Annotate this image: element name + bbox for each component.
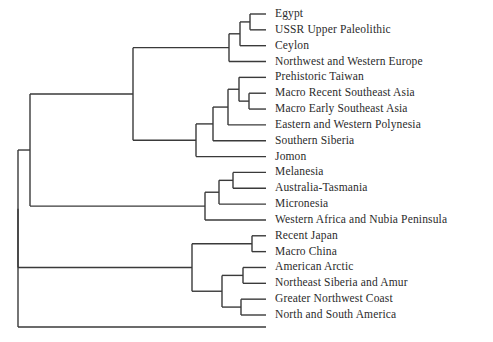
dendrogram-tree — [0, 0, 493, 342]
leaf-label-northeast-siberia-and-amur: Northeast Siberia and Amur — [275, 277, 408, 289]
leaf-label-northwest-and-western-europe: Northwest and Western Europe — [275, 56, 423, 68]
leaf-label-australia-tasmania: Australia-Tasmania — [275, 182, 368, 194]
leaf-label-eastern-and-western-polynesia: Eastern and Western Polynesia — [275, 119, 421, 131]
leaf-label-macro-china: Macro China — [275, 246, 337, 258]
dendrogram-figure: EgyptUSSR Upper PaleolithicCeylonNorthwe… — [0, 0, 493, 342]
leaf-label-jomon: Jomon — [275, 151, 306, 163]
tree-branch-lines — [18, 14, 266, 327]
leaf-label-macro-recent-southeast-asia: Macro Recent Southeast Asia — [275, 87, 415, 99]
leaf-label-western-africa-and-nubia-peninsula: Western Africa and Nubia Peninsula — [275, 214, 447, 226]
leaf-label-egypt: Egypt — [275, 8, 303, 20]
leaf-label-macro-early-southeast-asia: Macro Early Southeast Asia — [275, 103, 408, 115]
leaf-label-ussr-upper-paleolithic: USSR Upper Paleolithic — [275, 24, 391, 36]
leaf-label-greater-northwest-coast: Greater Northwest Coast — [275, 293, 393, 305]
leaf-label-prehistoric-taiwan: Prehistoric Taiwan — [275, 71, 364, 83]
leaf-label-micronesia: Micronesia — [275, 198, 328, 210]
leaf-label-ceylon: Ceylon — [275, 40, 309, 52]
leaf-label-north-and-south-america: North and South America — [275, 309, 396, 321]
leaf-label-recent-japan: Recent Japan — [275, 230, 338, 242]
leaf-label-southern-siberia: Southern Siberia — [275, 135, 354, 147]
leaf-label-american-arctic: American Arctic — [275, 261, 354, 273]
leaf-label-melanesia: Melanesia — [275, 166, 324, 178]
